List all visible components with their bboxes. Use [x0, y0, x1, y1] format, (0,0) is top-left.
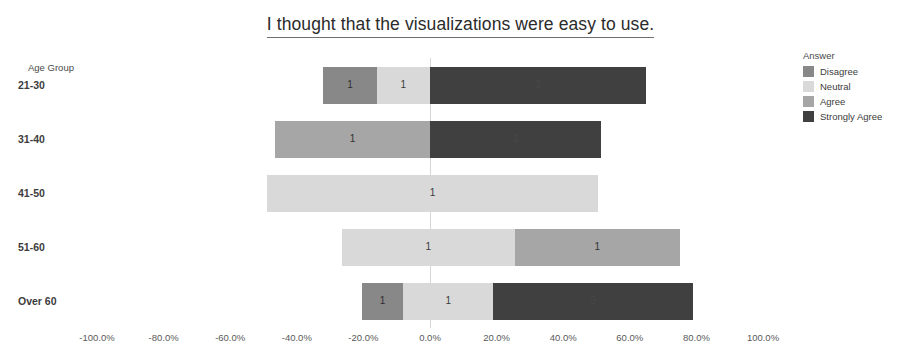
bar-segment: 1: [342, 229, 515, 266]
bar-segment: 1: [515, 229, 680, 266]
x-axis-tick-label: 0.0%: [419, 332, 441, 343]
bar-segment: 1: [362, 283, 404, 320]
legend-item-label: Neutral: [820, 81, 851, 92]
chart-title: I thought that the visualizations were e…: [0, 14, 921, 35]
bar-segment: 1: [323, 67, 376, 104]
bar-segment: 1: [275, 121, 430, 158]
x-axis-tick-label: 20.0%: [483, 332, 510, 343]
x-axis-tick-label: -20.0%: [348, 332, 378, 343]
y-axis-category-label: 51-60: [18, 241, 90, 253]
bar-segment: 3: [493, 283, 693, 320]
bar-segment-label: 1: [446, 296, 452, 306]
bar-segment: 1: [403, 283, 493, 320]
bar-row: 112: [97, 67, 763, 104]
legend-title: Answer: [803, 50, 915, 61]
bar-segment-label: 1: [347, 80, 353, 90]
x-axis-ticks: -100.0%-80.0%-60.0%-40.0%-20.0%0.0%20.0%…: [97, 332, 763, 348]
legend-swatch-icon: [803, 96, 814, 107]
chart-title-text: I thought that the visualizations were e…: [267, 14, 654, 38]
legend-item[interactable]: Disagree: [803, 66, 915, 77]
x-axis-tick-label: -40.0%: [282, 332, 312, 343]
y-axis-category-label: 31-40: [18, 133, 90, 145]
plot-area: 11211111113: [97, 58, 763, 328]
bar-row: 11: [97, 121, 763, 158]
x-axis-tick-label: 40.0%: [550, 332, 577, 343]
bar-row: 1: [97, 175, 763, 212]
legend-items: DisagreeNeutralAgreeStrongly Agree: [803, 66, 915, 122]
legend-item-label: Agree: [820, 96, 845, 107]
y-axis-category-label: 41-50: [18, 187, 90, 199]
x-axis-tick-label: -60.0%: [215, 332, 245, 343]
x-axis-tick-label: 80.0%: [683, 332, 710, 343]
bar-segment: 1: [267, 175, 598, 212]
legend-item[interactable]: Strongly Agree: [803, 111, 915, 122]
x-axis-tick-label: -80.0%: [149, 332, 179, 343]
bar-segment-label: 3: [590, 296, 596, 306]
bar-segment-label: 1: [380, 296, 386, 306]
legend-swatch-icon: [803, 66, 814, 77]
bar-segment-label: 1: [401, 80, 407, 90]
legend-item-label: Disagree: [820, 66, 858, 77]
bar-segment: 2: [430, 67, 646, 104]
y-axis-title: Age Group: [28, 62, 74, 73]
legend-swatch-icon: [803, 81, 814, 92]
bar-segment-label: 1: [513, 134, 519, 144]
bar-segment-label: 1: [426, 242, 432, 252]
legend-item[interactable]: Neutral: [803, 81, 915, 92]
x-axis-tick-label: -100.0%: [79, 332, 114, 343]
bar-segment-label: 1: [430, 188, 436, 198]
bar-segment: 1: [377, 67, 430, 104]
bar-segment-label: 1: [350, 134, 356, 144]
legend-item[interactable]: Agree: [803, 96, 915, 107]
bar-segment-label: 1: [595, 242, 601, 252]
bar-segment-label: 2: [535, 80, 541, 90]
x-axis-tick-label: 60.0%: [616, 332, 643, 343]
bar-segment: 1: [430, 121, 601, 158]
legend-item-label: Strongly Agree: [820, 111, 882, 122]
bar-row: 113: [97, 283, 763, 320]
y-axis-category-label: Over 60: [18, 295, 90, 307]
chart-container: I thought that the visualizations were e…: [0, 0, 921, 362]
bar-row: 11: [97, 229, 763, 266]
legend: Answer DisagreeNeutralAgreeStrongly Agre…: [803, 50, 915, 126]
legend-swatch-icon: [803, 111, 814, 122]
y-axis-category-label: 21-30: [18, 79, 90, 91]
x-axis-tick-label: 100.0%: [747, 332, 779, 343]
